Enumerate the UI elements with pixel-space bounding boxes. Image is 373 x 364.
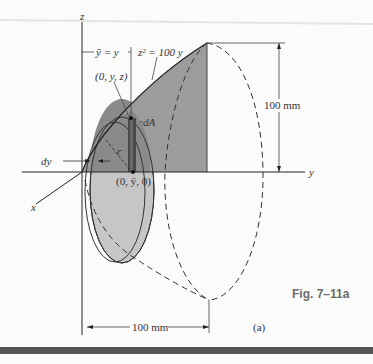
thickness-dy-label: dy xyxy=(41,155,52,167)
x-axis xyxy=(36,172,82,204)
curve-equation-label: z² = 100 y xyxy=(137,46,183,58)
top-rule xyxy=(0,20,373,24)
bottom-bar xyxy=(0,347,373,354)
height-dimension-label: 100 mm xyxy=(264,99,301,111)
point-bottom-label: (0, ȳ, 0) xyxy=(116,175,151,188)
figure-sublabel: (a) xyxy=(253,321,266,334)
z-axis-label: z xyxy=(79,10,85,22)
figure-caption: Fig. 7–11a xyxy=(292,287,350,301)
length-dimension-label: 100 mm xyxy=(132,321,169,333)
point-top-label: (0, y, z) xyxy=(95,70,128,83)
centroid-relation-label: ỹ = y xyxy=(95,46,119,58)
paraboloid-diagram: z y x ỹ = y z² = 100 y (0, y, z) dA dy r… xyxy=(0,0,373,364)
y-axis-label: y xyxy=(308,166,314,178)
element-dA-label: dA xyxy=(143,116,156,128)
x-axis-label: x xyxy=(30,201,36,213)
radius-r-label: r xyxy=(117,145,122,157)
